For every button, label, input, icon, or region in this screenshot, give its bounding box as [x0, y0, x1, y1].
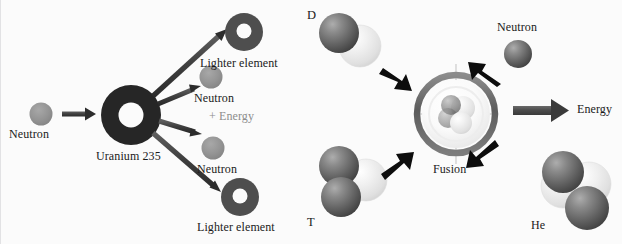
lighter-element-label-bottom: Lighter element	[197, 221, 275, 233]
figure-canvas: Neutron Uranium 235 Lighter element Neut…	[0, 0, 622, 244]
lighter-element-nucleus-top	[225, 13, 263, 51]
tritium-cluster	[319, 146, 387, 217]
tritium-label: T	[307, 216, 315, 229]
fission-incoming-neutron-label: Neutron	[9, 128, 49, 140]
uranium-235-label: Uranium 235	[96, 150, 161, 162]
fission-energy-label: + Energy	[209, 110, 254, 122]
helium-label: He	[531, 219, 545, 231]
fusion-core-label: Fusion	[433, 163, 466, 175]
lighter-element-label-top: Lighter element	[200, 57, 278, 69]
fission-neutron-label-2: Neutron	[197, 163, 237, 175]
deuterium-cluster	[319, 13, 381, 67]
energy-output-arrow	[513, 99, 569, 122]
deuterium-label: D	[307, 9, 316, 22]
tritium-input-arrow	[381, 152, 414, 180]
fission-neutron-product-2	[202, 137, 225, 160]
diagram-vector-layer	[1, 0, 622, 244]
deuterium-input-arrow	[379, 68, 412, 91]
fusion-neutron-product	[504, 40, 532, 68]
helium-cluster	[541, 151, 611, 230]
fusion-energy-label: Energy	[577, 103, 612, 115]
incoming-neutron-sphere	[30, 103, 53, 126]
lighter-element-nucleus-bottom	[221, 178, 259, 216]
incoming-neutron-arrow	[62, 108, 96, 121]
fusion-neutron-label: Neutron	[497, 21, 537, 33]
fusion-panel	[319, 13, 611, 230]
fission-arrow-3	[159, 121, 202, 137]
fission-neutron-label-1: Neutron	[194, 92, 234, 104]
